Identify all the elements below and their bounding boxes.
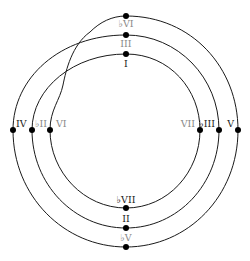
node-dot-v bbox=[235, 127, 241, 133]
node-dot-ii bbox=[123, 225, 129, 231]
node-label-iv: IV bbox=[16, 118, 27, 129]
node-label-bv: ♭V bbox=[120, 232, 131, 243]
node-dot-i bbox=[123, 51, 129, 57]
node-label-bvi: ♭VI bbox=[118, 18, 133, 29]
node-dot-vi bbox=[47, 127, 53, 133]
node-label-bii: ♭II bbox=[35, 118, 47, 129]
node-label-v: V bbox=[226, 118, 234, 129]
node-label-bvii: ♭VII bbox=[117, 194, 136, 205]
diagram-canvas: ♭VIIIIIIV♭IIVIVII♭IIIV♭VIIII♭V bbox=[0, 0, 250, 261]
node-dot-bvii bbox=[123, 205, 129, 211]
progression-diagram: ♭VIIIIIIV♭IIVIVII♭IIIV♭VIIII♭V bbox=[0, 0, 250, 261]
node-label-iii: III bbox=[120, 38, 132, 49]
node-label-i: I bbox=[124, 58, 128, 69]
node-label-biii: ♭III bbox=[199, 118, 215, 129]
node-label-vi: VI bbox=[55, 118, 67, 129]
node-label-vii: VII bbox=[180, 118, 196, 129]
node-dot-bv bbox=[123, 244, 129, 250]
node-label-ii: II bbox=[122, 213, 130, 224]
node-dot-biii bbox=[216, 127, 222, 133]
